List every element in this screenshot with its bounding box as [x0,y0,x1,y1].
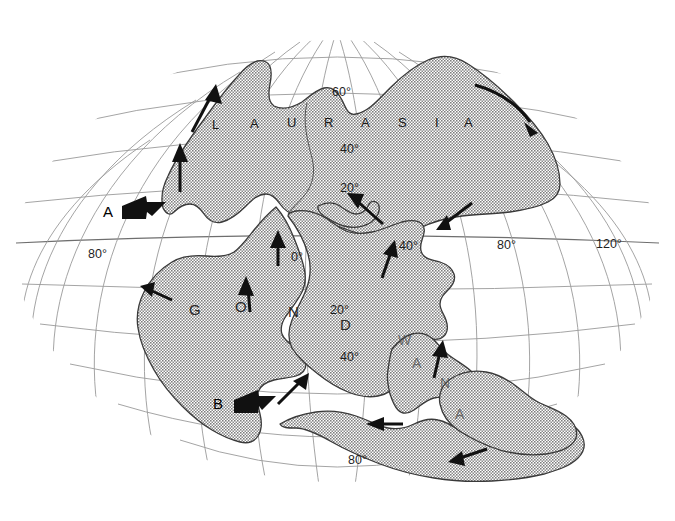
laurasia-letter: I [435,115,439,130]
graticule-label: 80° [348,453,367,467]
graticule-label: 80° [88,247,107,261]
gondwana-letter: N [288,303,299,320]
gondwana-letter: N [440,375,450,391]
laurasia-letter: A [464,115,473,130]
laurasia-letter: R [324,115,333,130]
plate-marker-label-b: B [213,395,223,412]
gondwana-letter: A [412,355,422,371]
laurasia-letter: L [212,117,219,132]
map-canvas: L A U R A S I A G O N D W A N A 60° 40° … [0,0,675,521]
gondwana-letter: O [235,298,247,315]
graticule-label: 80° [497,238,516,252]
thick-arrow-marker-a [122,196,166,219]
plate-marker-label-a: A [103,203,113,220]
graticule-label: 120° [596,237,622,251]
gondwana-letter: G [189,301,201,318]
graticule-label: 40° [340,350,359,364]
gondwana-letter: A [455,406,465,422]
graticule-label: 20° [330,303,349,317]
graticule-label: 40° [399,239,418,253]
pangaea-reconstruction-map: L A U R A S I A G O N D W A N A 60° 40° … [0,0,675,521]
laurasia-letter: A [250,116,259,131]
laurasia-letter: U [287,115,296,130]
laurasia-letter: A [361,115,370,130]
graticule-label: 20° [340,181,359,195]
laurasia-letter: S [398,115,407,130]
graticule-label: 0° [291,250,303,264]
gondwana-letter: W [398,332,412,348]
graticule-label: 40° [340,142,359,156]
graticule-label: 60° [332,85,351,99]
gondwana-letter: D [340,316,351,333]
